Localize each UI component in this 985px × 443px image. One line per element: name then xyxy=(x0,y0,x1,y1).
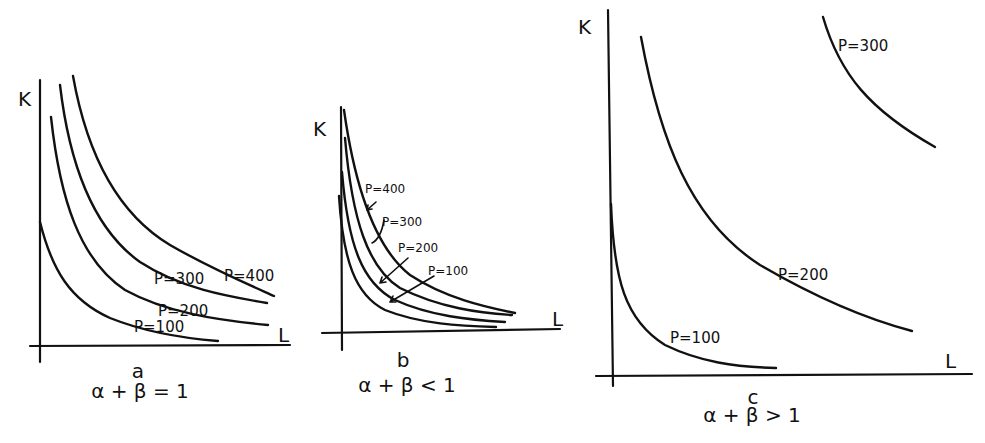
panel-b-x-axis xyxy=(322,329,560,333)
panel-b-x-label: L xyxy=(552,307,564,331)
panel-c: K L P=100 P=200 P=300 c α + β > 1 xyxy=(578,10,972,427)
panel-c-y-label: K xyxy=(578,15,592,39)
panel-b-label-p100: P=100 xyxy=(428,264,468,278)
panel-b-arrow-p400 xyxy=(367,202,376,210)
panel-c-caption-condition: α + β > 1 xyxy=(703,403,801,427)
panel-c-curve-p200 xyxy=(641,37,912,331)
panel-a-label-p200: P=200 xyxy=(158,302,208,320)
panel-a-label-p100: P=100 xyxy=(134,318,184,336)
panel-b-arrow-p100 xyxy=(390,276,434,302)
panel-b-caption-condition: α + β < 1 xyxy=(358,373,456,397)
panel-b-y-label: K xyxy=(313,117,327,141)
panel-a-x-label: L xyxy=(278,323,290,347)
panel-c-label-p300: P=300 xyxy=(838,37,888,55)
panel-c-x-label: L xyxy=(945,349,957,373)
panel-a-caption-condition: α + β = 1 xyxy=(91,379,189,403)
panel-a-curve-p200 xyxy=(51,117,268,325)
panel-a-x-axis xyxy=(30,345,290,346)
panel-a-y-label: K xyxy=(18,87,32,111)
panel-a-label-p300: P=300 xyxy=(154,270,204,288)
panel-c-label-p100: P=100 xyxy=(670,329,720,347)
panel-b-label-p400: P=400 xyxy=(365,182,405,196)
panel-a-label-p400: P=400 xyxy=(224,267,274,285)
isoquant-diagram: K L P=100 P=200 P=300 P=400 a α + β = 1 … xyxy=(0,0,985,443)
panel-c-y-axis xyxy=(608,10,613,386)
panel-c-x-axis xyxy=(596,374,972,376)
panel-b: K L P=400 P=300 P=200 P=100 b α + β < 1 xyxy=(313,107,564,397)
panel-b-curve-p400 xyxy=(344,110,515,313)
panel-b-label-p300: P=300 xyxy=(382,215,422,229)
panel-a: K L P=100 P=200 P=300 P=400 a α + β = 1 xyxy=(18,76,290,403)
panel-a-curve-p400 xyxy=(73,76,274,296)
panel-b-caption-letter: b xyxy=(397,348,410,372)
panel-b-curve-p300 xyxy=(345,138,512,315)
panel-c-label-p200: P=200 xyxy=(778,266,828,284)
panel-b-label-p200: P=200 xyxy=(398,241,438,255)
